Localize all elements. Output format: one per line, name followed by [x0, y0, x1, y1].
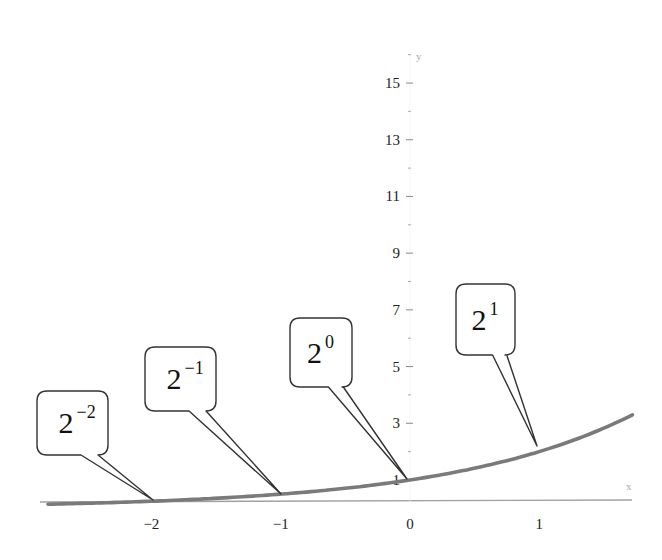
callouts: 2−22−12021 [37, 284, 537, 500]
callout-base: 2 [59, 406, 74, 439]
x-tick-label: 0 [406, 516, 414, 532]
callout-base: 2 [307, 336, 322, 369]
y-axis-name: y [416, 50, 422, 62]
y-tick-label: 11 [386, 188, 400, 204]
callout-exponent: 0 [325, 332, 334, 352]
x-ticks: −2−101 [143, 516, 543, 532]
y-tick-label: 13 [385, 132, 400, 148]
y-tick-label: 15 [385, 75, 400, 91]
x-tick-label: 1 [536, 516, 544, 532]
callout-base: 2 [167, 362, 182, 395]
callout-base: 2 [472, 303, 487, 336]
exponential-curve [48, 415, 632, 504]
callout-exponent: 1 [490, 299, 499, 319]
x-tick-label: −2 [143, 516, 159, 532]
exponential-chart: y x 13579111315 −2−101 2−22−12021 [0, 0, 662, 560]
y-tick-label: 9 [393, 245, 401, 261]
callout-2: 2−1 [145, 347, 281, 494]
y-tick-label: 5 [393, 359, 401, 375]
callout-exponent: −1 [185, 358, 204, 378]
axes: y x 13579111315 −2−101 [40, 50, 632, 532]
callout-3: 20 [290, 318, 407, 479]
callout-1: 2−2 [37, 391, 153, 500]
y-tick-label: 3 [393, 415, 401, 431]
callout-box [145, 347, 281, 494]
callout-4: 21 [456, 284, 537, 446]
callout-exponent: −2 [77, 402, 96, 422]
x-axis-name: x [626, 480, 632, 492]
y-tick-label: 7 [393, 302, 401, 318]
x-tick-label: −1 [273, 516, 289, 532]
y-ticks: 13579111315 [385, 55, 413, 488]
